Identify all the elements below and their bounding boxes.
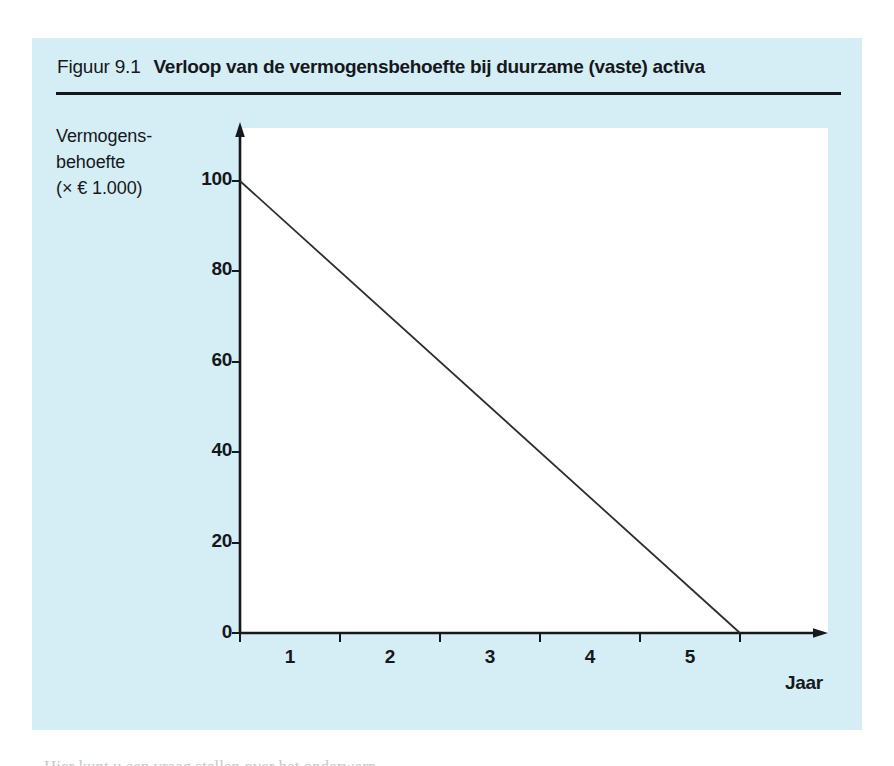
x-axis-ticks	[240, 633, 740, 642]
data-series-vermogensbehoefte	[240, 181, 740, 633]
chart-svg	[32, 38, 862, 730]
page-bottom-text: Hier kunt u een vraag stellen over het o…	[44, 757, 744, 766]
figure-panel: Figuur 9.1Verloop van de vermogensbehoef…	[32, 38, 862, 730]
y-axis	[235, 122, 245, 634]
chart-area: Vermogens- behoefte (× € 1.000) Jaar 100…	[32, 38, 862, 730]
figure-page: Figuur 9.1Verloop van de vermogensbehoef…	[0, 0, 894, 766]
